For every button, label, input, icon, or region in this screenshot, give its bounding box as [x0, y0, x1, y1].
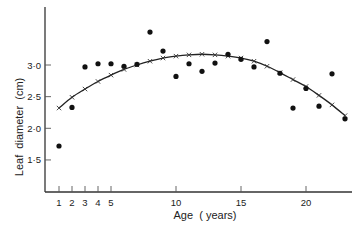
- fitted-curve-line: [59, 54, 345, 115]
- data-point: [316, 104, 321, 109]
- x-tick-label: 4: [95, 197, 100, 208]
- y-tick-label: 1·5: [27, 154, 41, 165]
- y-axis-label: Leaf diameter (cm): [13, 78, 25, 176]
- data-point: [56, 143, 61, 148]
- x-marker: [57, 106, 61, 110]
- x-marker: [317, 93, 321, 97]
- data-point: [69, 105, 74, 110]
- data-point: [277, 71, 282, 76]
- x-marker: [330, 103, 334, 107]
- y-tick-label: 2·0: [27, 123, 41, 134]
- x-marker: [83, 87, 87, 91]
- x-marker: [70, 95, 74, 99]
- x-tick-label: 1: [56, 197, 61, 208]
- data-point: [264, 39, 269, 44]
- y-tick-label: 2·5: [27, 91, 41, 102]
- data-point: [82, 64, 87, 69]
- axes: 123451015201·52·02·53·0: [27, 7, 352, 208]
- data-point: [251, 64, 256, 69]
- data-point: [186, 61, 191, 66]
- data-point: [238, 57, 243, 62]
- data-point: [329, 71, 334, 76]
- x-tick-label: 2: [69, 197, 74, 208]
- fitted-curve: [59, 54, 345, 115]
- y-tick-label: 3·0: [27, 60, 41, 71]
- data-point: [160, 48, 165, 53]
- data-point: [342, 116, 347, 121]
- x-axis-label: Age ( years): [174, 209, 237, 221]
- data-point: [134, 62, 139, 67]
- x-marker: [291, 77, 295, 81]
- x-marker: [96, 79, 100, 83]
- data-point: [290, 105, 295, 110]
- observed-points: [56, 29, 347, 148]
- data-point: [95, 61, 100, 66]
- x-tick-label: 10: [171, 197, 182, 208]
- data-point: [121, 64, 126, 69]
- data-point: [147, 29, 152, 34]
- data-point: [173, 74, 178, 79]
- x-tick-label: 3: [82, 197, 87, 208]
- x-tick-label: 5: [108, 197, 113, 208]
- data-point: [303, 86, 308, 91]
- data-point: [225, 52, 230, 57]
- data-point: [212, 61, 217, 66]
- x-tick-label: 20: [301, 197, 312, 208]
- data-point: [108, 61, 113, 66]
- data-point: [199, 69, 204, 74]
- leaf-diameter-chart: 123451015201·52·02·53·0 Age ( years) Lea…: [0, 0, 361, 232]
- x-tick-label: 15: [236, 197, 247, 208]
